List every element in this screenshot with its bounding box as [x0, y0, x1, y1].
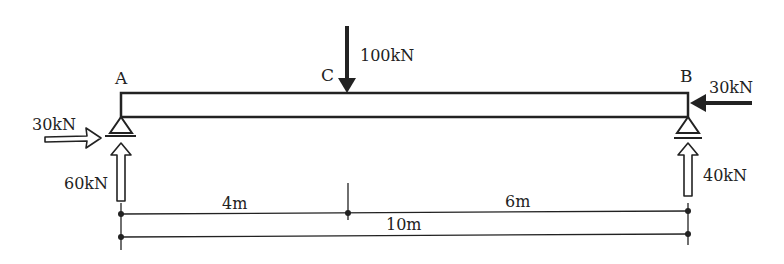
point-label-c: C — [321, 67, 334, 84]
beam-diagram: A C B 100kN 30kN 30kN 60kN 40kN 4m 6m 10… — [0, 0, 784, 264]
dimension-label-a-c: 4m — [222, 196, 247, 212]
load-label-c: 100kN — [360, 48, 414, 64]
reaction-arrow-a-vertical-icon — [111, 143, 131, 201]
reaction-arrow-b-vertical-icon — [678, 143, 698, 196]
reaction-label-a-vertical: 60kN — [64, 176, 108, 192]
load-label-b-horizontal: 30kN — [709, 80, 753, 96]
reaction-label-a-horizontal: 30kN — [32, 117, 76, 133]
point-label-b: B — [680, 68, 693, 85]
point-label-a: A — [115, 70, 127, 87]
load-arrow-c-icon — [338, 26, 356, 93]
dimension-label-total: 10m — [386, 217, 422, 233]
dimension-label-c-b: 6m — [505, 194, 530, 210]
beam — [121, 93, 688, 117]
support-b-icon — [674, 117, 702, 138]
support-a-icon — [105, 117, 136, 136]
reaction-label-b-vertical: 40kN — [703, 168, 747, 184]
